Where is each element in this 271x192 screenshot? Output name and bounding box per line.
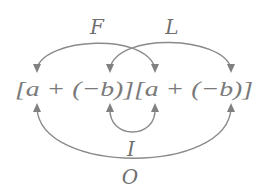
arrow-head-icon — [106, 64, 114, 73]
arrow-head-icon — [151, 103, 159, 112]
arrow-head-icon — [33, 103, 41, 112]
arrow-i — [110, 108, 155, 132]
label-i: I — [126, 137, 136, 161]
label-f: F — [89, 15, 105, 39]
foil-diagram: F L I O [a + (−b)][a + (−b)] — [0, 0, 271, 192]
arrow-head-icon — [227, 64, 235, 73]
arrow-head-icon — [106, 103, 114, 112]
arrow-head-icon — [33, 64, 41, 73]
arrow-head-icon — [227, 103, 235, 112]
arrow-head-icon — [151, 64, 159, 73]
expression: [a + (−b)][a + (−b)] — [15, 76, 253, 101]
label-o: O — [122, 165, 138, 189]
label-l: L — [164, 15, 178, 39]
